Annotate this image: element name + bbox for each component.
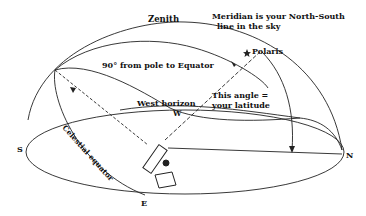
telescope-icon [143, 145, 176, 188]
label-meridian-2: line in the sky [217, 21, 281, 31]
label-angle-1: This angle = [212, 90, 268, 100]
label-polaris: Polaris [252, 46, 284, 56]
label-ninety-degrees: 90° from pole to Equator [102, 60, 215, 70]
label-zenith: Zenith [148, 14, 179, 24]
horizon-line-north [168, 148, 342, 154]
label-angle-2: your latitude [211, 100, 270, 110]
label-west: W [172, 109, 182, 118]
label-west-horizon: West horizon [136, 98, 196, 108]
celestial-sphere-diagram: Zenith Meridian is your North-South line… [0, 0, 366, 216]
label-celestial-equator: Celestial equator [61, 123, 117, 183]
polaris-star-icon [243, 49, 251, 57]
arrow-head [70, 87, 76, 93]
label-meridian-1: Meridian is your North-South [212, 11, 345, 21]
label-north: N [346, 150, 353, 160]
label-south: S [17, 144, 23, 154]
label-east: E [141, 198, 147, 208]
